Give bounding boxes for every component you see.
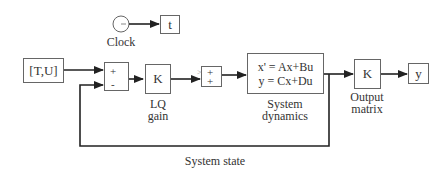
system-dynamics-label-line2: dynamics [252,110,318,122]
lq-gain-label-line2: gain [138,110,178,122]
system-dynamics-label: System dynamics [252,98,318,122]
lq-gain-block[interactable]: K [145,64,171,94]
output-matrix-label-line2: matrix [344,103,390,115]
state-equation: x' = Ax+Bu [258,60,314,74]
sum1-minus-sign: - [111,79,115,90]
output-matrix-label: Output matrix [344,91,390,115]
system-dynamics-block[interactable]: x' = Ax+Bu y = Cx+Du [247,53,324,94]
input-block[interactable]: [T,U] [23,58,64,83]
clock-label: Clock [101,36,141,48]
output-matrix-block[interactable]: K [354,59,381,89]
sum1-plus-sign: + [110,66,116,77]
lq-gain-label: LQ gain [138,98,178,122]
sum-block-1[interactable]: + - [104,62,129,91]
y-output-block[interactable]: y [408,63,429,84]
t-output-block[interactable]: t [160,15,180,34]
sum2-input-marker: > [197,67,202,78]
output-equation: y = Cx+Du [258,74,312,88]
system-state-label: System state [170,155,260,167]
sum-block-2[interactable]: > + + [201,66,222,87]
sum2-plus-bottom: + [207,76,213,87]
clock-icon [113,16,129,32]
